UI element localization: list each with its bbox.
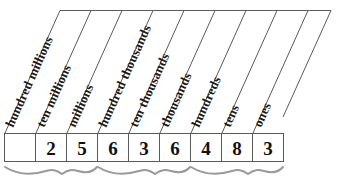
header-label-millions: millions [64,81,96,129]
digit-value: 2 [46,138,56,159]
header-label-tens: tens [219,102,242,129]
digit-value: 4 [201,138,211,159]
digit-value: 6 [170,138,180,159]
digit-value: 3 [139,138,149,159]
brace-thousands-period [98,167,190,174]
digit-value: 5 [77,138,87,159]
brace-millions-period [5,167,97,174]
place-value-chart-svg: hundred millions ten millions millions h… [0,0,342,178]
header-label-ones: ones [250,100,274,129]
digit-cell[interactable] [5,134,36,162]
digit-value: 6 [108,138,118,159]
place-value-chart: hundred millions ten millions millions h… [0,0,342,178]
brace-ones-period [191,167,283,174]
header-label-hundreds: hundreds [188,74,224,130]
digit-row: 2 5 6 3 6 4 8 3 [5,134,284,162]
period-braces [5,167,283,174]
digit-value: 3 [263,138,273,159]
header-diagonal-line [283,11,331,118]
digit-value: 8 [232,138,242,159]
